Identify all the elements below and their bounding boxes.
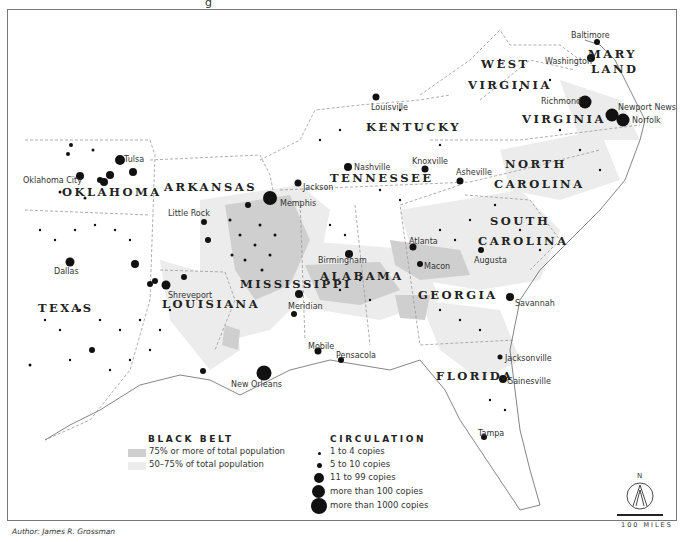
legend-swatch-50-75 (128, 462, 146, 470)
legend-dot-11-99 (314, 473, 324, 483)
compass-label: N (637, 472, 642, 480)
state-label: OKLAHOMA (62, 186, 162, 198)
city-label: Washington (545, 57, 592, 66)
legend-circulation-item-1: 1 to 4 copies (330, 446, 385, 456)
state-label: ARKANSAS (164, 181, 257, 193)
city-label: Pensacola (336, 351, 376, 360)
state-label: FLORIDA (436, 370, 514, 382)
city-label: Newport News (618, 103, 676, 112)
city-label: Meridian (288, 302, 323, 311)
north-arrow-icon (627, 483, 653, 509)
city-label: Louisville (371, 103, 408, 112)
city-label: Mobile (308, 342, 334, 351)
city-label: Dallas (54, 267, 79, 276)
city-label: Baltimore (571, 31, 610, 40)
legend-circulation-title: CIRCULATION (330, 434, 426, 444)
city-label: Memphis (280, 199, 316, 208)
city-label: Gainesville (507, 377, 551, 386)
state-label: CAROLINA (494, 178, 585, 190)
scale-bar (617, 514, 663, 516)
city-label: Birmingham (318, 256, 367, 265)
legend-dot-1-4 (318, 452, 321, 455)
legend-circulation-item-5: more than 1000 copies (330, 500, 428, 510)
city-label: Jacksonville (505, 354, 552, 363)
state-label: CAROLINA (478, 235, 569, 247)
state-label: VIRGINIA (468, 79, 552, 91)
city-label: Tulsa (124, 155, 144, 164)
city-label: Richmond (541, 97, 581, 106)
state-label: VIRGINIA (522, 113, 606, 125)
legend-circulation-item-4: more than 100 copies (330, 486, 423, 496)
legend-circulation-item-3: 11 to 99 copies (330, 472, 396, 482)
city-label: Jackson (303, 183, 333, 192)
city-label: Savannah (515, 299, 555, 308)
legend-black-belt-item-2: 50–75% of total population (149, 459, 264, 469)
state-label: LAND (591, 63, 639, 75)
legend-black-belt-title: BLACK BELT (148, 434, 234, 444)
state-label: GEORGIA (418, 289, 498, 301)
legend-dot-1000 (311, 498, 327, 514)
state-label: SOUTH (490, 215, 550, 227)
city-label: Shreveport (168, 291, 212, 300)
city-label: Nashville (354, 163, 390, 172)
legend-swatch-75 (128, 449, 146, 457)
state-label: TEXAS (38, 302, 94, 314)
city-label: Little Rock (168, 209, 210, 218)
state-label: MARY (588, 48, 637, 60)
city-label: Norfolk (632, 116, 661, 125)
city-label: New Orleans (231, 380, 282, 389)
state-label: TENNESSEE (330, 172, 434, 184)
city-label: Tampa (478, 429, 504, 438)
legend-dot-100 (312, 485, 325, 498)
legend-dot-5-10 (317, 463, 322, 468)
city-label: Atlanta (409, 237, 438, 246)
state-label: ALABAMA (320, 270, 404, 282)
city-label: Asheville (456, 168, 492, 177)
author-credit: Author: James R. Grossman (12, 527, 115, 536)
city-label: Knoxville (412, 157, 448, 166)
state-label: KENTUCKY (366, 121, 461, 133)
legend-circulation-item-2: 5 to 10 copies (330, 459, 390, 469)
state-label: NORTH (505, 158, 567, 170)
state-label: WEST (481, 58, 530, 70)
city-label: Macon (424, 262, 450, 271)
scale-label: 100 MILES (621, 521, 673, 529)
city-label: Oklahoma City (23, 176, 82, 185)
city-label: Augusta (474, 256, 507, 265)
legend-black-belt-item-1: 75% or more of total population (149, 446, 285, 456)
